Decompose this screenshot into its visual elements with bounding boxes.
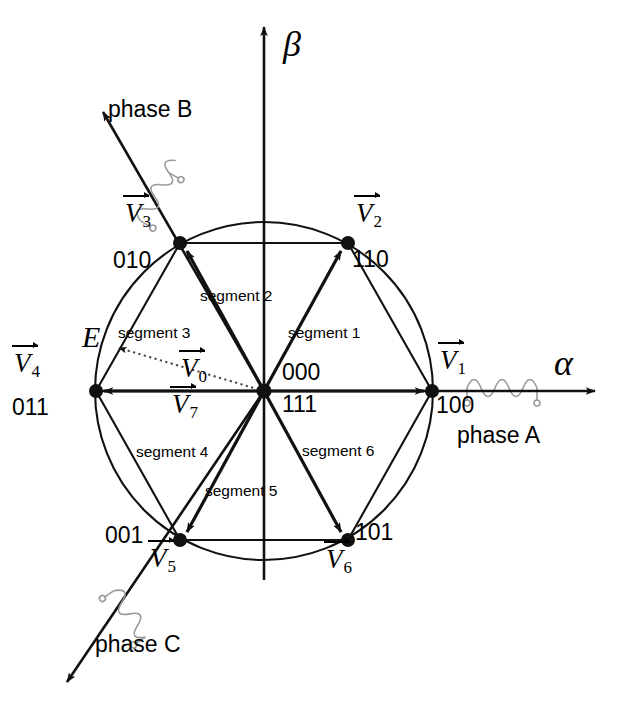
vector-label-V7: V7 [172,391,198,421]
switching-state-V3: 010 [113,249,151,272]
phase-c-label: phase C [95,633,181,656]
beta-axis-label: β [283,26,301,62]
vector-label-V6-symbol: V [326,546,343,573]
vector-label-V4: V4 [14,350,40,380]
vector-label-V6-index: 6 [343,558,353,577]
segment-label-4: segment 4 [136,444,208,460]
segment-label-5: segment 5 [205,483,277,499]
vector-label-V5: V5 [150,545,176,575]
phase-b-label: phase B [108,98,192,121]
vector-V5-arrow [187,391,264,532]
vector-label-V3-index: 3 [142,212,152,231]
switching-state-V6: 101 [355,521,393,544]
vertex-dot-origin [257,384,272,399]
space-vector-hexagon-svg [0,0,626,712]
switching-state-V7: 111 [282,393,317,416]
switching-state-V2: 110 [352,248,389,271]
segment-label-2: segment 2 [200,288,272,304]
vector-label-V3: V3 [125,200,151,230]
phase-a-coil-icon [464,380,540,407]
switching-state-V4: 011 [12,396,49,419]
vector-label-V7-symbol: V [172,391,189,418]
vector-label-V0-index: 0 [198,367,208,386]
switching-state-V0: 000 [282,361,320,384]
vector-label-V2: V2 [356,200,382,230]
vector-label-V1-symbol: V [440,347,457,374]
phase-a-label: phase A [457,424,540,447]
vector-label-V5-symbol: V [150,545,167,572]
vertex-dot-V3 [173,236,187,250]
vector-label-V5-index: 5 [167,557,177,576]
segment-label-1: segment 1 [288,325,360,341]
vector-label-V4-symbol: V [14,350,31,377]
alpha-axis-label: α [554,345,573,381]
vector-label-V2-index: 2 [373,212,383,231]
vector-label-V4-index: 4 [31,362,41,381]
vector-label-V0-symbol: V [181,355,198,382]
switching-state-V1: 100 [436,394,474,417]
segment-label-6: segment 6 [302,443,374,459]
vector-label-V1: V1 [440,347,466,377]
switching-state-V5: 001 [105,524,143,547]
diagram-canvas: β α V1 100 V2 110 V3 010 V4 011 V5 001 V… [0,0,626,712]
vector-label-V7-index: 7 [189,403,199,422]
reference-vector-label-E: E [82,322,100,352]
vertex-dot-V4 [89,384,103,398]
vector-label-V2-symbol: V [356,200,373,227]
vector-label-V1-index: 1 [457,359,467,378]
segment-label-3: segment 3 [118,325,190,341]
vector-label-V6: V6 [326,546,352,576]
vector-label-V0: V0 [181,355,207,385]
vector-label-V3-symbol: V [125,200,142,227]
